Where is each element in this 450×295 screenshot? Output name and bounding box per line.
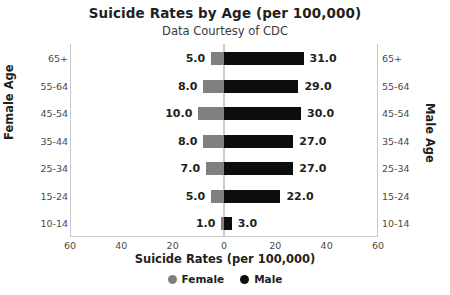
bar-row: 8.027.0: [71, 128, 377, 156]
male-bar[interactable]: [224, 80, 298, 93]
male-bar[interactable]: [224, 217, 232, 230]
female-value-label: 1.0: [196, 217, 216, 230]
left-axis-title: Female Age: [2, 64, 16, 140]
female-value-label: 8.0: [178, 135, 198, 148]
female-value-label: 5.0: [186, 52, 206, 65]
female-value-label: 5.0: [186, 190, 206, 203]
male-half: 31.0: [224, 52, 377, 65]
x-tick-label: 0: [221, 240, 227, 251]
x-tick-label: 20: [269, 240, 281, 251]
female-bar[interactable]: [211, 190, 224, 203]
category-label-left: 15-24: [40, 183, 68, 211]
male-half: 3.0: [224, 217, 377, 230]
female-bar[interactable]: [203, 135, 224, 148]
right-axis-title: Male Age: [423, 103, 437, 163]
male-value-label: 29.0: [304, 80, 331, 93]
female-half: 5.0: [71, 52, 224, 65]
bar-row: 5.031.0: [71, 45, 377, 73]
x-tick-label: 20: [167, 240, 179, 251]
female-bar[interactable]: [206, 162, 224, 175]
chart-legend: FemaleMale: [0, 273, 450, 285]
male-value-label: 3.0: [238, 217, 258, 230]
male-value-label: 30.0: [307, 107, 334, 120]
female-half: 10.0: [71, 107, 224, 120]
x-axis-label: Suicide Rates (per 100,000): [0, 252, 450, 266]
x-tick-label: 40: [321, 240, 333, 251]
category-label-right: 35-44: [382, 128, 410, 156]
legend-item[interactable]: Female: [168, 273, 225, 285]
male-half: 29.0: [224, 80, 377, 93]
female-value-label: 8.0: [178, 80, 198, 93]
male-bar[interactable]: [224, 107, 301, 120]
category-label-right: 45-54: [382, 100, 410, 128]
category-label-left: 35-44: [40, 128, 68, 156]
male-half: 27.0: [224, 162, 377, 175]
chart-subtitle: Data Courtesy of CDC: [0, 24, 450, 38]
category-label-right: 55-64: [382, 73, 410, 101]
male-bar[interactable]: [224, 135, 293, 148]
female-bar[interactable]: [211, 52, 224, 65]
female-half: 5.0: [71, 190, 224, 203]
male-value-label: 27.0: [299, 162, 326, 175]
legend-marker-icon: [240, 275, 249, 284]
category-label-left: 45-54: [40, 100, 68, 128]
category-label-left: 10-14: [40, 210, 68, 238]
female-value-label: 7.0: [181, 162, 201, 175]
category-label-left: 55-64: [40, 73, 68, 101]
male-half: 22.0: [224, 190, 377, 203]
bar-row: 8.029.0: [71, 73, 377, 101]
female-bar[interactable]: [198, 107, 224, 120]
male-half: 27.0: [224, 135, 377, 148]
legend-item[interactable]: Male: [240, 273, 282, 285]
x-tick-label: 60: [372, 240, 384, 251]
female-value-label: 10.0: [165, 107, 192, 120]
legend-marker-icon: [168, 275, 177, 284]
male-bar[interactable]: [224, 52, 304, 65]
male-value-label: 31.0: [310, 52, 337, 65]
legend-label: Female: [182, 273, 225, 285]
bar-row: 7.027.0: [71, 155, 377, 183]
bar-row: 1.03.0: [71, 210, 377, 238]
female-half: 7.0: [71, 162, 224, 175]
plot-area: 5.031.08.029.010.030.08.027.07.027.05.02…: [70, 44, 378, 237]
female-bar[interactable]: [203, 80, 224, 93]
male-bar[interactable]: [224, 190, 280, 203]
male-half: 30.0: [224, 107, 377, 120]
chart-title: Suicide Rates by Age (per 100,000): [0, 5, 450, 21]
legend-label: Male: [254, 273, 282, 285]
category-label-left: 25-34: [40, 155, 68, 183]
female-half: 8.0: [71, 135, 224, 148]
bar-row: 5.022.0: [71, 183, 377, 211]
x-tick-label: 40: [115, 240, 127, 251]
category-label-left: 65+: [48, 45, 68, 73]
female-half: 8.0: [71, 80, 224, 93]
female-half: 1.0: [71, 217, 224, 230]
category-label-right: 65+: [382, 45, 402, 73]
male-bar[interactable]: [224, 162, 293, 175]
category-label-right: 15-24: [382, 183, 410, 211]
male-value-label: 22.0: [286, 190, 313, 203]
bar-row: 10.030.0: [71, 100, 377, 128]
category-label-right: 25-34: [382, 155, 410, 183]
x-tick-label: 60: [64, 240, 76, 251]
male-value-label: 27.0: [299, 135, 326, 148]
category-label-right: 10-14: [382, 210, 410, 238]
